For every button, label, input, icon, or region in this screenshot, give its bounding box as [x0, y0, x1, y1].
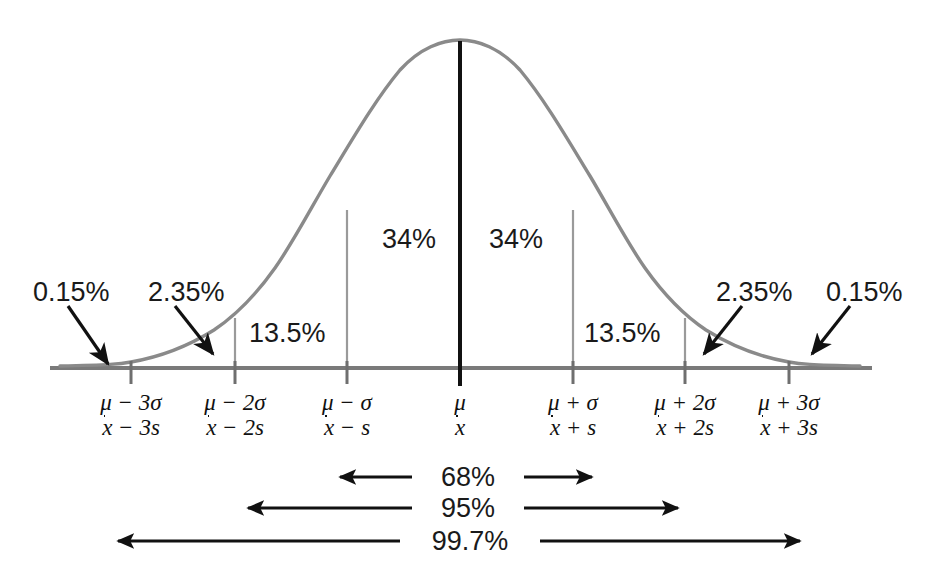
interval-label-68: 68% — [420, 462, 516, 493]
percent-label-left-mid: 13.5% — [249, 318, 326, 349]
axis-label-sample-xbar: x — [395, 416, 525, 439]
axis-label-sample-minus-2-sigma: x − 2s — [170, 416, 300, 439]
axis-label-population-minus-2-sigma: μ − 2σ — [170, 391, 300, 414]
axis-label-mu: μ x — [395, 391, 525, 440]
percent-label-right-mid: 13.5% — [584, 318, 661, 349]
percent-label-left-center: 34% — [382, 224, 436, 255]
percent-label-left-tail-inner: 2.35% — [148, 277, 225, 308]
callout-arrow-left-outer — [68, 306, 108, 364]
axis-label-minus-1-sigma: μ − σ x − s — [282, 391, 412, 440]
axis-label-plus-3-sigma: μ + 3σ x + 3s — [724, 391, 854, 440]
axis-label-population-minus-1-sigma: μ − σ — [282, 391, 412, 414]
axis-label-sample-plus-3-sigma: x + 3s — [724, 416, 854, 439]
axis-label-population-plus-3-sigma: μ + 3σ — [724, 391, 854, 414]
axis-label-sample-plus-1-sigma: x + s — [508, 416, 638, 439]
axis-label-population-mu: μ — [395, 391, 525, 414]
interval-label-997: 99.7% — [402, 526, 538, 557]
percent-label-right-tail-outer: 0.15% — [826, 277, 903, 308]
empirical-rule-normal-curve-figure: { "figure": { "title": "Empirical rule n… — [0, 0, 928, 578]
axis-label-minus-2-sigma: μ − 2σ x − 2s — [170, 391, 300, 440]
axis-label-sample-minus-1-sigma: x − s — [282, 416, 412, 439]
interval-label-95: 95% — [420, 493, 516, 524]
axis-label-plus-1-sigma: μ + σ x + s — [508, 391, 638, 440]
percent-label-right-tail-inner: 2.35% — [716, 277, 793, 308]
axis-label-population-plus-1-sigma: μ + σ — [508, 391, 638, 414]
percent-label-right-center: 34% — [489, 224, 543, 255]
callout-arrow-right-outer — [812, 306, 850, 354]
percent-label-left-tail-outer: 0.15% — [33, 277, 110, 308]
